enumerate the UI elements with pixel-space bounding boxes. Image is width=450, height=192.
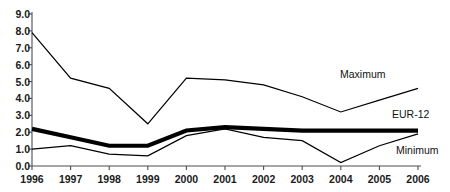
x-axis-tick-label: 2002 — [252, 173, 275, 185]
series-label-minimum: Minimum — [396, 144, 439, 156]
x-axis-tick-labels: 1996199719981999200020012002200320042005… — [0, 0, 450, 192]
x-axis-tick-label: 1997 — [59, 173, 82, 185]
x-axis-tick-label: 2004 — [329, 173, 352, 185]
x-axis-tick-label: 2003 — [291, 173, 314, 185]
x-axis-tick-label: 2006 — [406, 173, 429, 185]
series-label-maximum: Maximum — [340, 68, 386, 80]
series-label-eur-12: EUR-12 — [392, 108, 429, 120]
x-axis-tick-label: 2001 — [213, 173, 236, 185]
x-axis-tick-label: 1996 — [20, 173, 43, 185]
x-axis-tick-label: 2000 — [175, 173, 198, 185]
x-axis-tick-label: 1998 — [98, 173, 121, 185]
x-axis-tick-label: 2005 — [368, 173, 391, 185]
x-axis-tick-label: 1999 — [136, 173, 159, 185]
line-chart: 0.01.02.03.04.05.06.07.08.09.0 199619971… — [0, 0, 450, 192]
